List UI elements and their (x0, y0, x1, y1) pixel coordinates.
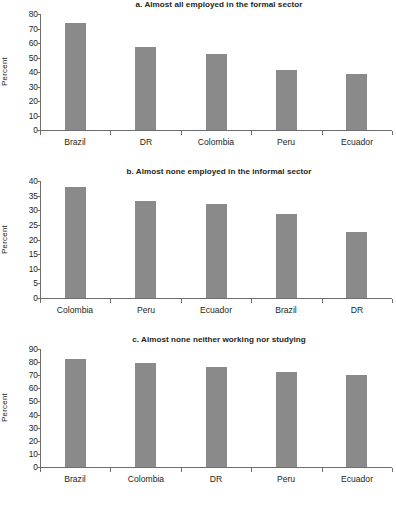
panel-title: c. Almost none neither working nor study… (46, 335, 392, 345)
x-axis-category-label: Brazil (64, 474, 86, 484)
x-axis-category-label: Peru (277, 474, 295, 484)
bar (65, 187, 86, 298)
x-tick-mark (110, 468, 111, 472)
panel-a: a. Almost all employed in the formal sec… (0, 0, 396, 156)
y-axis-line (40, 349, 41, 468)
x-axis-category-label: DR (210, 474, 222, 484)
x-tick-mark (322, 299, 323, 303)
x-axis-category-label: Peru (277, 137, 295, 147)
x-tick-mark (392, 131, 393, 135)
y-axis-tick-labels: 0510152025303540 (14, 167, 38, 300)
panel-c: c. Almost none neither working nor study… (0, 335, 396, 493)
x-axis-category-label: Colombia (128, 474, 164, 484)
x-tick-mark (40, 468, 41, 472)
bar (135, 47, 156, 130)
y-axis-tick-labels: 0102030405060708090 (14, 335, 38, 469)
x-axis-category-label: Ecuador (200, 305, 232, 315)
x-axis-line (40, 467, 392, 468)
bar (346, 232, 367, 298)
figure-bar-panels: a. Almost all employed in the formal sec… (0, 0, 396, 507)
bar (206, 367, 227, 467)
x-tick-mark (392, 299, 393, 303)
x-tick-mark (40, 299, 41, 303)
plot-area: BrazilDRColombiaPeruEcuador (40, 14, 392, 131)
x-axis-category-label: Brazil (64, 137, 86, 147)
x-tick-mark (251, 468, 252, 472)
x-tick-mark (251, 131, 252, 135)
x-tick-mark (110, 299, 111, 303)
x-tick-mark (110, 131, 111, 135)
bar (65, 359, 86, 467)
x-axis-line (40, 298, 392, 299)
bar (346, 375, 367, 467)
y-axis-line (40, 14, 41, 131)
panel-b: b. Almost none employed in the informal … (0, 167, 396, 324)
panel-title: a. Almost all employed in the formal sec… (46, 0, 392, 10)
bar (206, 54, 227, 130)
x-tick-mark (40, 131, 41, 135)
x-tick-mark (322, 468, 323, 472)
bar (65, 23, 86, 130)
x-tick-mark (181, 468, 182, 472)
y-axis-tick-labels: 01020304050607080 (14, 0, 38, 132)
bar (276, 70, 297, 130)
y-axis-line (40, 181, 41, 299)
bar (346, 74, 367, 130)
x-axis-category-label: Peru (137, 305, 155, 315)
x-tick-mark (251, 299, 252, 303)
y-axis-title: Percent (0, 51, 9, 93)
plot-area: BrazilColombiaDRPeruEcuador (40, 349, 392, 468)
bar (206, 204, 227, 298)
bar (135, 201, 156, 298)
x-axis-category-label: Colombia (57, 305, 93, 315)
x-axis-line (40, 130, 392, 131)
x-axis-category-label: Ecuador (341, 137, 373, 147)
x-axis-category-label: Ecuador (341, 474, 373, 484)
bar (276, 372, 297, 467)
x-axis-category-label: Colombia (198, 137, 234, 147)
y-axis-title: Percent (0, 219, 9, 261)
x-axis-category-label: DR (140, 137, 152, 147)
y-axis-title: Percent (0, 387, 9, 429)
plot-area: ColombiaPeruEcuadorBrazilDR (40, 181, 392, 299)
bar (276, 214, 297, 298)
panel-title: b. Almost none employed in the informal … (46, 167, 392, 177)
bar (135, 363, 156, 467)
x-axis-category-label: DR (351, 305, 363, 315)
x-tick-mark (181, 131, 182, 135)
x-tick-mark (392, 468, 393, 472)
x-axis-category-label: Brazil (275, 305, 297, 315)
x-tick-mark (322, 131, 323, 135)
x-tick-mark (181, 299, 182, 303)
